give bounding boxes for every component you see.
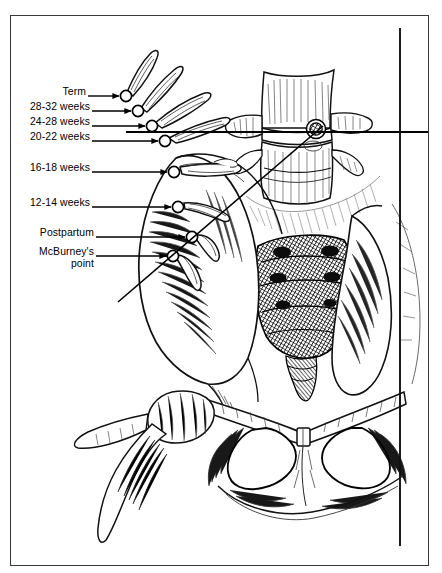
ilium-right-group: [332, 205, 391, 394]
sacral-foramen: [324, 272, 341, 282]
label-24-28-weeks: 24-28 weeks: [0, 116, 90, 128]
illustration-canvas: Term 28-32 weeks 24-28 weeks 20-22 weeks…: [0, 0, 442, 573]
lumbar-spine-group: [226, 70, 373, 204]
label-mcburney: McBurney's: [0, 246, 94, 258]
pubis-group: [194, 392, 406, 520]
transverse-process-lower-right: [332, 150, 363, 175]
label-postpartum: Postpartum: [0, 227, 94, 239]
label-mcburney-point: point: [0, 258, 94, 270]
femur-left-group: [74, 391, 214, 542]
right-lateral-tissue: [392, 204, 420, 384]
sacral-foramen: [324, 299, 337, 307]
label-28-32-weeks: 28-32 weeks: [0, 101, 90, 113]
sacral-foramen: [276, 301, 291, 310]
label-term: Term: [0, 86, 86, 98]
sacral-foramen: [321, 246, 339, 257]
transverse-process-right: [331, 113, 372, 133]
ilium-left: [139, 156, 259, 385]
sacral-foramen: [273, 247, 291, 258]
sacral-foramen: [270, 273, 287, 283]
label-16-18-weeks: 16-18 weeks: [0, 162, 90, 174]
pubic-symphysis: [297, 428, 310, 446]
label-12-14-weeks: 12-14 weeks: [0, 197, 90, 209]
transverse-process-left: [226, 115, 263, 138]
label-20-22-weeks: 20-22 weeks: [0, 131, 90, 143]
